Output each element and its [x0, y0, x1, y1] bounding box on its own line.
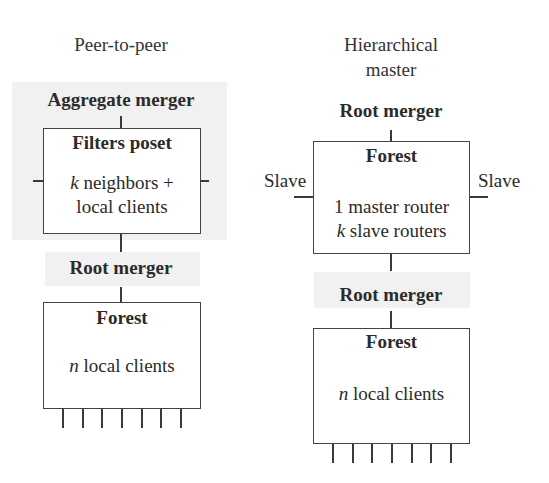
slave-connector-left: [294, 196, 313, 198]
forest-box: Forest n local clients: [313, 328, 470, 444]
connector-line: [390, 254, 392, 271]
slave-label-right: Slave: [478, 169, 520, 193]
aggregate-merger-label: Aggregate merger: [21, 88, 221, 112]
diagram-title-line2: master: [291, 57, 491, 82]
client-tick: [180, 409, 182, 428]
client-tick: [391, 444, 393, 463]
box-heading: Forest: [314, 144, 469, 168]
connector-line: [120, 287, 122, 303]
variable-k: k: [70, 172, 78, 193]
box-heading: Filters poset: [44, 131, 200, 155]
variable-k: k: [337, 220, 345, 241]
box-text-line: n local clients: [44, 354, 200, 378]
client-tick: [101, 409, 103, 428]
box-text-line: n local clients: [314, 382, 469, 406]
client-tick: [371, 444, 373, 463]
client-tick: [450, 444, 452, 463]
box-text: neighbors +: [79, 172, 174, 193]
box-heading: Forest: [44, 306, 200, 330]
client-tick: [430, 444, 432, 463]
slave-label-left: Slave: [264, 169, 306, 193]
root-merger-label: Root merger: [291, 283, 491, 307]
box-text-line: k neighbors +: [44, 171, 200, 195]
box-heading: Forest: [314, 330, 469, 354]
client-tick: [411, 444, 413, 463]
box-text-line: local clients: [44, 195, 200, 219]
client-tick: [62, 409, 64, 428]
client-tick: [160, 409, 162, 428]
client-tick: [121, 409, 123, 428]
filters-poset-box: Filters poset k neighbors + local client…: [43, 128, 201, 234]
client-tick: [82, 409, 84, 428]
variable-n: n: [69, 355, 79, 376]
client-tick: [141, 409, 143, 428]
box-text: slave routers: [345, 220, 446, 241]
forest-master-box: Forest 1 master router k slave routers: [313, 141, 470, 254]
root-merger-label: Root merger: [21, 256, 221, 280]
forest-box: Forest n local clients: [43, 302, 201, 409]
diagram-title: Peer-to-peer: [21, 32, 221, 57]
connector-line: [120, 234, 122, 252]
slave-connector-right: [470, 196, 488, 198]
client-connectors: [62, 409, 182, 428]
root-merger-label: Root merger: [291, 99, 491, 123]
client-tick: [352, 444, 354, 463]
connector-line: [390, 311, 392, 329]
box-text: local clients: [79, 355, 175, 376]
side-connector-right: [201, 180, 209, 182]
client-connectors: [332, 444, 452, 463]
variable-n: n: [339, 383, 349, 404]
client-tick: [332, 444, 334, 463]
box-text-line: 1 master router: [314, 195, 469, 219]
side-connector-left: [33, 180, 43, 182]
diagram-title-line1: Hierarchical: [291, 32, 491, 57]
box-text-line: k slave routers: [314, 219, 469, 243]
box-text: local clients: [348, 383, 444, 404]
